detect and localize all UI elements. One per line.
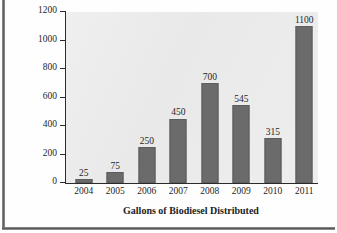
y-axis-tick-label: 400: [25, 119, 57, 129]
x-axis-tick-label: 2009: [232, 186, 251, 196]
bar-value-label: 1100: [295, 15, 314, 25]
bar-value-label: 315: [266, 127, 280, 137]
bar-chart-figure: Million gallons 020040060080010001200 25…: [0, 0, 337, 233]
bar-value-label: 545: [234, 94, 248, 104]
x-axis-tick-label: 2006: [137, 186, 156, 196]
bar-group: 7002008: [194, 12, 226, 183]
bar: [296, 26, 313, 183]
x-axis-tick-label: 2011: [295, 186, 314, 196]
x-axis-tick-label: 2005: [106, 186, 125, 196]
y-axis-tick: 800: [60, 68, 66, 69]
bar-group: 2502006: [131, 12, 163, 183]
x-axis-tick-label: 2008: [200, 186, 219, 196]
bar: [75, 179, 92, 183]
y-axis-tick-label: 1200: [25, 5, 57, 15]
y-axis-tick: 1000: [60, 40, 66, 41]
plot-area: 020040060080010001200 252004752005250200…: [65, 12, 318, 184]
y-axis-tick: 200: [60, 154, 66, 155]
bar-value-label: 250: [140, 136, 154, 146]
y-axis-tick-label: 1000: [25, 34, 57, 44]
x-axis-tick-label: 2010: [263, 186, 282, 196]
bar: [170, 119, 187, 183]
y-axis-tick-label: 600: [25, 91, 57, 101]
bar: [138, 147, 155, 183]
bar-group: 252004: [68, 12, 100, 183]
y-axis-tick: 1200: [60, 11, 66, 12]
bar-group: 11002011: [289, 12, 321, 183]
bar: [107, 172, 124, 183]
y-axis-tick-label: 800: [25, 62, 57, 72]
bar: [264, 138, 281, 183]
y-axis-tick-label: 200: [25, 148, 57, 158]
bar-group: 5452009: [226, 12, 258, 183]
y-axis-tick: 600: [60, 97, 66, 98]
x-axis-tick-label: 2004: [74, 186, 93, 196]
bar-group: 3152010: [257, 12, 289, 183]
bar: [201, 83, 218, 183]
x-axis-title: Gallons of Biodiesel Distributed: [65, 205, 317, 216]
bar: [233, 105, 250, 183]
x-axis-tick-label: 2007: [169, 186, 188, 196]
bar-value-label: 25: [79, 168, 89, 178]
bar-value-label: 450: [171, 107, 185, 117]
bar-group: 4502007: [163, 12, 195, 183]
y-axis-tick: 0: [60, 182, 66, 183]
bar-value-label: 700: [203, 72, 217, 82]
y-axis-tick-label: 0: [25, 176, 57, 186]
scanned-page: Million gallons 020040060080010001200 25…: [0, 0, 337, 233]
bar-group: 752005: [100, 12, 132, 183]
y-axis-tick: 400: [60, 125, 66, 126]
bar-value-label: 75: [111, 161, 121, 171]
